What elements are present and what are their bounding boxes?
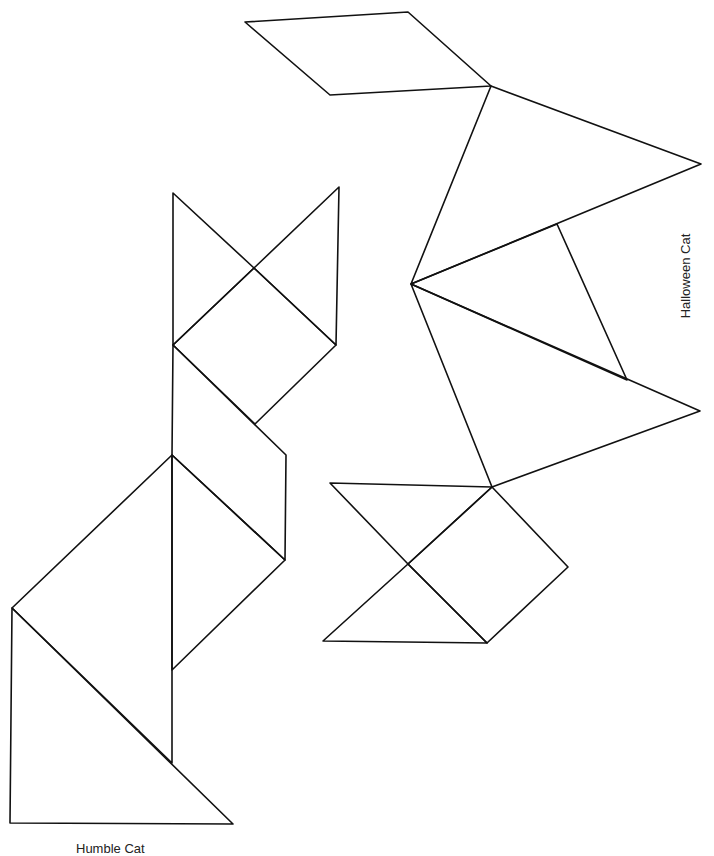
humble-cat-figure	[10, 187, 339, 824]
halloween-cat-figure	[245, 12, 701, 643]
humble-cat-caption: Humble Cat	[76, 841, 145, 856]
tangram-piece-small-triangle-right-ear	[254, 187, 339, 345]
tangram-piece-small-triangle-left-ear	[173, 193, 254, 345]
tangram-piece-small-triangle-bottom	[323, 564, 487, 643]
tangram-piece-large-triangle-lower	[411, 284, 700, 487]
tangram-piece-parallelogram-neck	[172, 345, 286, 560]
tangram-piece-large-triangle-upper	[411, 86, 701, 284]
tangram-piece-medium-triangle-body	[172, 455, 285, 670]
tangram-piece-square-head	[173, 268, 336, 424]
tangram-piece-large-triangle-base	[10, 608, 233, 824]
tangram-piece-small-triangle-top	[330, 483, 492, 564]
halloween-cat-caption: Halloween Cat	[678, 234, 693, 319]
tangram-piece-large-triangle-body	[12, 455, 172, 763]
tangram-piece-parallelogram	[245, 12, 491, 95]
tangram-piece-square	[408, 487, 568, 643]
tangram-piece-medium-triangle	[411, 224, 627, 380]
